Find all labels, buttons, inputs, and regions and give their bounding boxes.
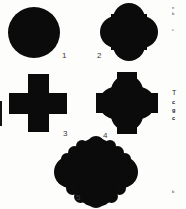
shape-4-quatrefoil-cross: 4 bbox=[88, 70, 170, 138]
multifoil-rosette-glyph bbox=[52, 136, 140, 208]
shape-1-number: 1 bbox=[62, 52, 66, 60]
rosette-scallop-lr-2 bbox=[105, 190, 118, 203]
margin-line-4: c bbox=[172, 99, 186, 106]
shape-3-greek-cross: 3 bbox=[0, 70, 78, 136]
margin-line-2: b bbox=[172, 11, 186, 17]
shape-1-circle: 1 bbox=[0, 0, 78, 66]
shape-2-quatrefoil: 2 bbox=[90, 0, 170, 66]
rosette-scallop-lr-3 bbox=[119, 175, 131, 187]
rosette-scallop-ul-3 bbox=[61, 153, 73, 165]
quatrefoil-lobe-right bbox=[126, 16, 158, 48]
rosette-crest-bottom bbox=[88, 194, 104, 208]
quatrefoil-glyph bbox=[100, 3, 158, 61]
shape-2-number: 2 bbox=[97, 52, 101, 60]
margin-line-1: e bbox=[172, 5, 186, 11]
rosette-crest-top bbox=[88, 136, 104, 150]
margin-line-3: c bbox=[172, 27, 186, 33]
margin-heading: T bbox=[172, 89, 186, 97]
greek-cross-glyph bbox=[9, 74, 67, 132]
rosette-scallop-ur-2 bbox=[104, 140, 116, 152]
foilcross-lobe-right bbox=[123, 87, 155, 119]
rosette-scallop-ll-3 bbox=[61, 175, 73, 187]
quatrefoil-cross-glyph bbox=[96, 72, 158, 134]
figure-plate: 1 2 3 4 bbox=[0, 0, 186, 209]
circle-glyph bbox=[8, 7, 60, 58]
rosette-scallop-ul-2 bbox=[76, 140, 88, 152]
cross-bar-vertical bbox=[28, 74, 49, 132]
shape-5-number: 5 bbox=[76, 194, 80, 202]
margin-line-7: b bbox=[172, 189, 186, 195]
shape-5-multifoil-rosette: 5 bbox=[48, 136, 144, 209]
margin-line-5: g bbox=[172, 107, 186, 114]
rosette-scallop-ur-3 bbox=[119, 153, 131, 165]
margin-line-6: c bbox=[172, 115, 186, 122]
